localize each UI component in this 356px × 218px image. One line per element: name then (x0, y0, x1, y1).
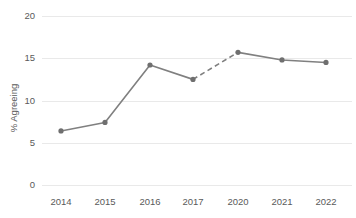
data-point-2016 (147, 62, 152, 67)
x-tick-label-2014: 2014 (50, 196, 71, 207)
series-line-dashed-gap-segment (193, 52, 238, 79)
y-tick-label-15: 15 (24, 52, 35, 63)
gridlines (42, 17, 352, 186)
series-line-group (61, 52, 326, 131)
y-tick-label-10: 10 (24, 95, 35, 106)
data-point-2014 (58, 128, 63, 133)
x-tick-label-2016: 2016 (139, 196, 160, 207)
data-point-2020 (235, 50, 240, 55)
series-markers (58, 50, 328, 134)
data-point-2021 (279, 57, 284, 62)
data-point-2015 (102, 120, 107, 125)
data-point-2022 (323, 60, 328, 65)
x-tick-label-2021: 2021 (271, 196, 292, 207)
x-tick-label-2022: 2022 (315, 196, 336, 207)
line-chart-figure: 20 15 10 5 0 % Agreeing 2014 2015 2016 2… (0, 0, 356, 218)
y-tick-label-20: 20 (24, 10, 35, 21)
y-tick-label-0: 0 (30, 179, 35, 190)
data-point-2017 (190, 77, 195, 82)
chart-canvas: 20 15 10 5 0 % Agreeing 2014 2015 2016 2… (0, 0, 356, 218)
y-tick-label-5: 5 (30, 137, 35, 148)
x-tick-label-2020: 2020 (227, 196, 248, 207)
x-axis-tick-labels: 2014 2015 2016 2017 2020 2021 2022 (50, 196, 336, 207)
y-axis-title: % Agreeing (8, 84, 19, 133)
x-tick-label-2015: 2015 (94, 196, 115, 207)
x-tick-label-2017: 2017 (182, 196, 203, 207)
series-line-solid-segment-1 (61, 65, 193, 131)
y-axis-tick-labels: 20 15 10 5 0 (24, 10, 35, 190)
